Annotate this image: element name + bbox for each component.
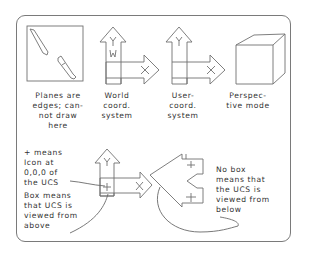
caption-user: User- coord. system: [160, 91, 206, 121]
ucs-nobox-icon: [150, 154, 203, 207]
perspective-cube-icon: [236, 34, 285, 84]
note-nobox: No box means that the UCS is viewed from…: [216, 165, 270, 215]
note-box: Box means that UCS is viewed from above: [24, 191, 78, 231]
broken-pencil-icon: [27, 26, 83, 81]
ucs-user-icon: [166, 27, 225, 84]
caption-edge-view: Planes are edges; can- not draw here: [28, 91, 88, 131]
caption-world: World coord. system: [94, 91, 140, 121]
caption-perspective: Perspec- tive mode: [215, 91, 281, 111]
ucs-world-icon: [100, 27, 159, 84]
ucs-box-plus-icon: [95, 149, 152, 198]
note-plus: + means Icon at 0,0,0 of the UCS: [24, 148, 62, 188]
leader-lines: [70, 181, 238, 233]
